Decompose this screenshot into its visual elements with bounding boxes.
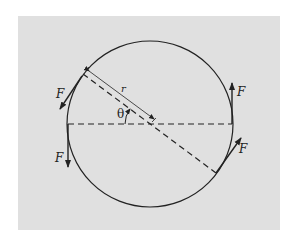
radius-label: r [121,84,126,94]
angle-arc [125,109,130,124]
force-label-lower-left: F [55,152,63,164]
force-label-lower-right: F [239,143,247,155]
force-label-upper-right: F [237,86,245,98]
force-arrow-lower-right [216,138,241,173]
force-label-upper-left: F [56,88,64,100]
force-diagram [0,0,298,240]
angle-label: θ [117,108,124,120]
